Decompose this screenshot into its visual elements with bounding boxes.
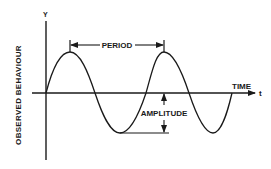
x-axis-symbol: t — [259, 89, 262, 98]
y-axis-label: Y — [43, 11, 48, 18]
amplitude-label: AMPLITUDE — [141, 109, 188, 118]
sine-wave-diagram: Y OBSERVED BEHAVIOUR TIME t PERIOD AMPLI… — [0, 0, 271, 169]
period-label: PERIOD — [102, 41, 133, 50]
x-axis-title: TIME — [232, 82, 252, 91]
y-axis-title: OBSERVED BEHAVIOUR — [14, 45, 23, 145]
